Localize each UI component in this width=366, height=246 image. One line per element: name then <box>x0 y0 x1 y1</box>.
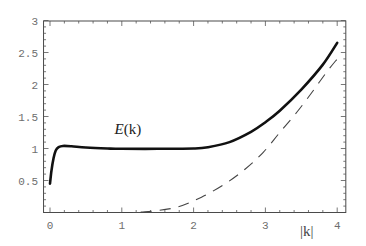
chart-plot: 01234 0.511.522.53 E(k) |k| <box>0 0 366 246</box>
y-tick-label: 1 <box>31 144 38 156</box>
axis-ticks <box>44 21 346 213</box>
y-tick-labels: 0.511.522.53 <box>18 16 38 188</box>
y-tick-label: 1.5 <box>18 112 38 124</box>
y-tick-label: 0.5 <box>18 176 38 188</box>
plot-frame <box>44 21 346 213</box>
y-tick-label: 2.5 <box>18 48 38 60</box>
x-axis-label: |k| <box>300 223 314 239</box>
x-tick-label: 3 <box>262 220 269 232</box>
y-tick-label: 3 <box>31 16 38 28</box>
x-tick-label: 4 <box>334 220 341 232</box>
y-tick-label: 2 <box>31 80 38 92</box>
dashed-curve <box>122 59 337 213</box>
x-tick-labels: 01234 <box>47 220 341 232</box>
curve-label-E-k: E(k) <box>114 121 142 138</box>
x-tick-label: 1 <box>118 220 125 232</box>
x-tick-label: 0 <box>47 220 54 232</box>
energy-curve-E-k <box>50 43 337 184</box>
x-tick-label: 2 <box>190 220 197 232</box>
